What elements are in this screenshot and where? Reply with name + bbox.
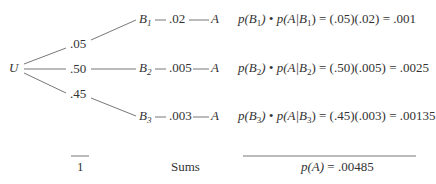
node-b2: B2 <box>139 61 151 75</box>
product-1-mid: ) • p(A|B <box>261 11 307 26</box>
sum-result: p(A) = .00485 <box>301 160 374 174</box>
product-row-2: p(B2) • p(A|B2) = (.50)(.005) = .0025 <box>238 61 429 75</box>
branch-prob-1: .05 <box>70 37 86 51</box>
sum-result-lhs: p(A) <box>301 159 324 174</box>
node-b3: B3 <box>139 109 151 123</box>
node-b1-sub: 1 <box>147 18 152 28</box>
product-1-rest: ) = (.05)(.02) = .001 <box>311 11 416 26</box>
cond-prob-1: .02 <box>169 12 185 26</box>
node-b1: B1 <box>139 12 151 26</box>
branch-prob-2: .50 <box>70 62 86 76</box>
node-b3-letter: B <box>139 108 147 123</box>
branch-line-u-b1-a <box>24 48 66 64</box>
leaf-a-3: A <box>211 109 219 123</box>
product-row-3: p(B3) • p(A|B3) = (.45)(.003) = .00135 <box>238 109 436 123</box>
product-1-p: p(B <box>238 11 257 26</box>
sum-of-probs: 1 <box>77 160 84 174</box>
branch-line-u-b3-b <box>91 98 136 116</box>
product-2-mid: ) • p(A|B <box>261 60 307 75</box>
sum-result-rhs: = .00485 <box>324 159 374 174</box>
leaf-a-2: A <box>211 61 219 75</box>
branch-prob-3: .45 <box>70 87 86 101</box>
cond-prob-2: .005 <box>169 61 192 75</box>
product-3-rest: ) = (.45)(.003) = .00135 <box>311 108 435 123</box>
branch-line-u-b1-b <box>91 20 136 40</box>
root-node-u: U <box>9 61 18 75</box>
product-2-rest: ) = (.50)(.005) = .0025 <box>311 60 429 75</box>
sums-label: Sums <box>171 160 200 174</box>
node-b3-sub: 3 <box>147 115 152 125</box>
node-b2-sub: 2 <box>147 67 152 77</box>
product-3-mid: ) • p(A|B <box>261 108 307 123</box>
product-row-1: p(B1) • p(A|B1) = (.05)(.02) = .001 <box>238 12 416 26</box>
node-b1-letter: B <box>139 11 147 26</box>
node-b2-letter: B <box>139 60 147 75</box>
leaf-a-1: A <box>211 12 219 26</box>
cond-prob-3: .003 <box>169 109 192 123</box>
product-3-p: p(B <box>238 108 257 123</box>
branch-line-u-b3-a <box>24 73 66 93</box>
product-2-p: p(B <box>238 60 257 75</box>
